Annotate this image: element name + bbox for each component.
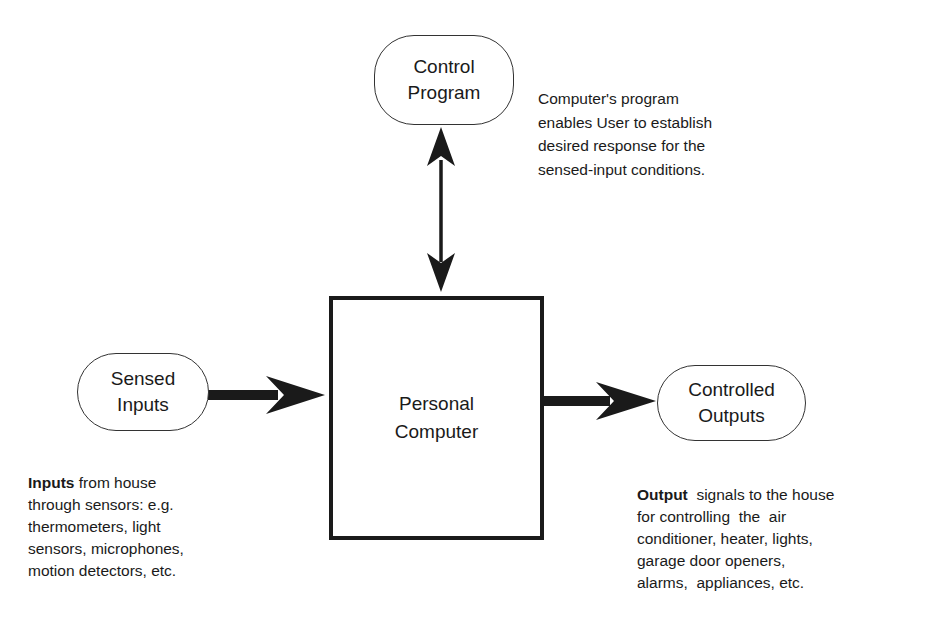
note-line: enables User to establish (538, 111, 712, 135)
node-label: Personal (399, 390, 474, 418)
note-line: motion detectors, etc. (28, 560, 184, 582)
note-line: alarms, appliances, etc. (637, 572, 834, 594)
node-controlled-outputs: Controlled Outputs (657, 365, 806, 441)
node-label: Program (408, 80, 481, 106)
node-label: Inputs (117, 392, 169, 418)
note-line: from house (75, 474, 157, 491)
note-outputs: Output signals to the house for controll… (637, 484, 834, 594)
output-arrow-shaft (540, 396, 610, 406)
note-line: thermometers, light (28, 516, 184, 538)
note-line: sensors, microphones, (28, 538, 184, 560)
note-line: conditioner, heater, lights, (637, 528, 834, 550)
note-line: desired response for the (538, 134, 712, 158)
node-sensed-inputs: Sensed Inputs (77, 353, 209, 431)
node-label: Control (413, 54, 474, 80)
note-line: sensed-input conditions. (538, 158, 712, 182)
input-arrow-shaft (208, 390, 278, 400)
note-line: Computer's program (538, 87, 712, 111)
note-line: signals to the house (688, 486, 835, 503)
node-label: Sensed (111, 366, 175, 392)
note-bold-term: Output (637, 486, 688, 503)
node-control-program: Control Program (374, 35, 514, 125)
note-line: through sensors: e.g. (28, 494, 184, 516)
note-bold-term: Inputs (28, 474, 75, 491)
note-program: Computer's program enables User to estab… (538, 87, 712, 181)
note-line: garage door openers, (637, 550, 834, 572)
node-label: Computer (395, 418, 478, 446)
node-label: Controlled (688, 377, 775, 403)
note-inputs: Inputs from house through sensors: e.g. … (28, 472, 184, 582)
note-line: for controlling the air (637, 506, 834, 528)
node-personal-computer: Personal Computer (329, 296, 544, 540)
node-label: Outputs (698, 403, 765, 429)
